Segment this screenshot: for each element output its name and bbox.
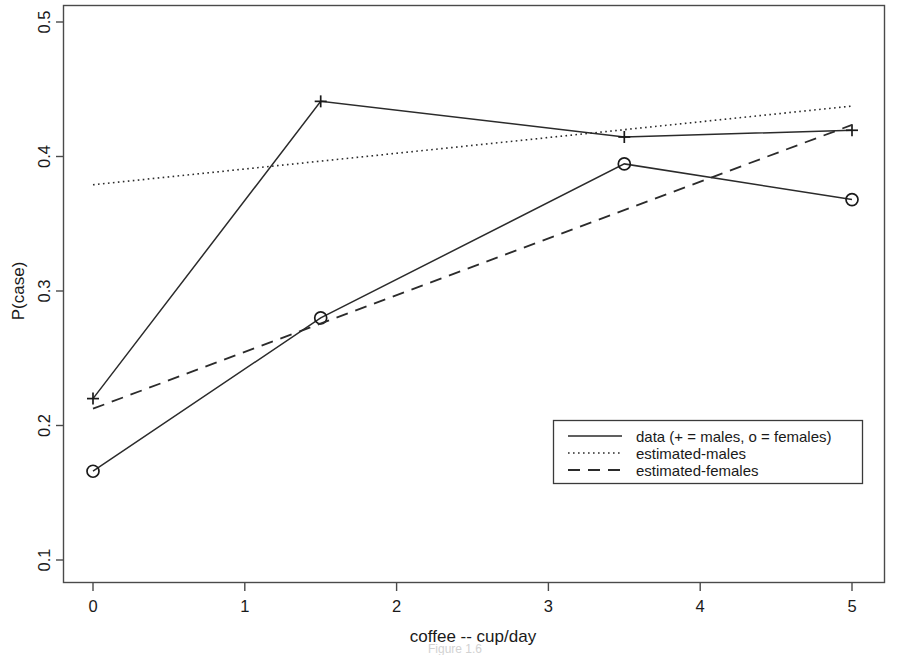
legend-label-estimated-males: estimated-males xyxy=(636,445,746,462)
data-point-marker-plus xyxy=(618,131,630,143)
figure-caption: Figure 1.6 xyxy=(428,642,482,655)
series-line-estimated-males xyxy=(93,106,852,185)
x-axis-tick-labels: 0 1 2 3 4 5 xyxy=(88,597,856,615)
x-tick-label: 0 xyxy=(88,597,97,615)
x-tick-label: 4 xyxy=(696,597,705,615)
chart-legend: data (+ = males, o = females) estimated-… xyxy=(554,421,863,484)
x-axis-ticks xyxy=(93,583,852,591)
y-tick-label: 0.4 xyxy=(35,145,53,168)
y-axis-title: P(case) xyxy=(9,262,28,321)
x-tick-label: 2 xyxy=(392,597,401,615)
y-tick-label: 0.2 xyxy=(35,414,53,437)
y-axis-tick-labels: 0.5 0.4 0.3 0.2 0.1 xyxy=(35,11,53,572)
x-tick-label: 5 xyxy=(847,597,856,615)
y-tick-label: 0.5 xyxy=(35,11,53,34)
plot-frame xyxy=(64,6,885,583)
legend-label-data: data (+ = males, o = females) xyxy=(636,428,832,445)
data-point-marker-plus xyxy=(87,393,99,405)
y-tick-label: 0.3 xyxy=(35,280,53,303)
y-tick-label: 0.1 xyxy=(35,549,53,572)
data-point-marker-plus xyxy=(315,95,327,107)
legend-label-estimated-females: estimated-females xyxy=(636,462,759,479)
series-line-estimated-females xyxy=(93,125,852,409)
figure-container: 0.5 0.4 0.3 0.2 0.1 P(case) 0 1 2 3 4 5 … xyxy=(0,0,902,655)
chart-canvas: 0.5 0.4 0.3 0.2 0.1 P(case) 0 1 2 3 4 5 … xyxy=(0,0,902,655)
y-axis-ticks xyxy=(56,22,63,560)
x-tick-label: 1 xyxy=(240,597,249,615)
x-tick-label: 3 xyxy=(544,597,553,615)
